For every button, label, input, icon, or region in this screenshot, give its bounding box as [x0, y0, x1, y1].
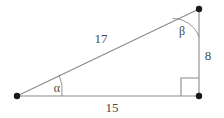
angle-beta-arc-icon — [173, 18, 200, 37]
hypotenuse-length-label: 17 — [95, 32, 108, 45]
bottom-right-vertex-dot — [196, 93, 202, 99]
angle-beta-label: β — [179, 25, 185, 37]
left-vertex-dot — [14, 93, 20, 99]
right-angle-marker-icon — [181, 78, 199, 96]
hypotenuse-line — [17, 9, 199, 96]
angle-alpha-label: α — [54, 82, 60, 94]
vertical-leg-length-label: 8 — [205, 49, 212, 62]
base-leg-length-label: 15 — [106, 101, 119, 114]
top-right-vertex-dot — [196, 6, 202, 12]
triangle-diagram-canvas: 17 8 15 α β — [0, 0, 224, 118]
